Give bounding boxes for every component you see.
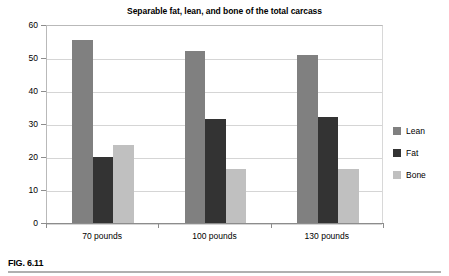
bar-fat-2: [318, 117, 339, 223]
legend-swatch-fat: [393, 149, 401, 157]
gridline: [47, 224, 382, 225]
bar-fat-1: [205, 119, 226, 223]
figure-container: Separable fat, lean, and bone of the tot…: [0, 0, 449, 276]
chart-title: Separable fat, lean, and bone of the tot…: [0, 6, 449, 16]
gridline: [47, 92, 382, 93]
x-axis-tick-label: 130 pounds: [271, 231, 383, 241]
gridline: [47, 59, 382, 60]
y-axis-tick-label: 30: [4, 120, 38, 129]
plot-area: [46, 25, 383, 223]
y-axis-tick-label: 0: [4, 219, 38, 228]
x-axis-tick-label: 70 pounds: [46, 231, 158, 241]
x-axis-tick: [383, 223, 384, 228]
y-axis-tick-label: 20: [4, 153, 38, 162]
caption-rule: [8, 271, 441, 273]
x-axis-tick-label: 100 pounds: [159, 231, 271, 241]
y-axis-tick: [41, 190, 46, 191]
y-axis-labels: 0102030405060: [0, 0, 38, 276]
bar-bone-1: [226, 169, 247, 223]
x-axis-tick: [271, 223, 272, 228]
y-axis-tick: [41, 124, 46, 125]
legend-item-fat: Fat: [393, 142, 449, 164]
y-axis-tick-label: 60: [4, 21, 38, 30]
y-axis-tick: [41, 58, 46, 59]
y-axis-tick: [41, 157, 46, 158]
bar-lean-0: [72, 40, 93, 223]
y-axis-tick-label: 10: [4, 186, 38, 195]
y-axis-tick-label: 50: [4, 54, 38, 63]
figure-caption: FIG. 6.11: [8, 258, 43, 268]
bar-lean-1: [185, 51, 206, 223]
legend-swatch-lean: [393, 127, 401, 135]
legend-item-lean: Lean: [393, 120, 449, 142]
bar-bone-0: [113, 145, 134, 223]
legend-swatch-bone: [393, 171, 401, 179]
y-axis-tick: [41, 91, 46, 92]
bar-bone-2: [338, 169, 359, 223]
bar-fat-0: [93, 157, 114, 223]
legend: LeanFatBone: [393, 120, 449, 186]
y-axis-tick-label: 40: [4, 87, 38, 96]
bar-lean-2: [297, 55, 318, 223]
legend-item-bone: Bone: [393, 164, 449, 186]
x-axis-tick: [46, 223, 47, 228]
legend-label: Bone: [406, 171, 426, 180]
legend-label: Fat: [406, 149, 418, 158]
x-axis-line: [46, 223, 384, 224]
legend-label: Lean: [406, 127, 425, 136]
x-axis-tick: [158, 223, 159, 228]
y-axis-tick: [41, 25, 46, 26]
